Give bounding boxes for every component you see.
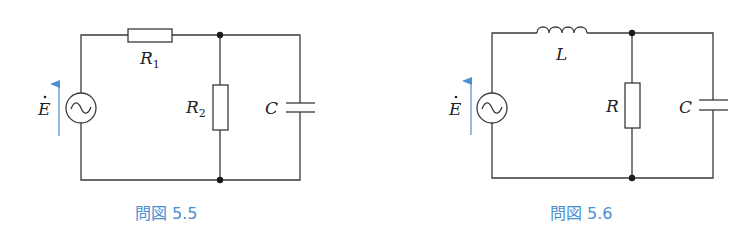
- junction-node-top: [629, 30, 635, 36]
- label-r2: R2: [185, 97, 206, 120]
- label-e: E: [448, 96, 462, 119]
- wire-left: [492, 33, 537, 93]
- capacitor-c: [699, 100, 728, 110]
- capacitor-c: [286, 103, 315, 112]
- wire-top: [587, 33, 713, 100]
- circuit-diagrams: E R1 R2 C E: [0, 0, 753, 237]
- figure-caption-5-5: 問図 5.5: [135, 200, 198, 224]
- resistor-r2: [213, 85, 228, 130]
- label-r1: R1: [139, 48, 160, 71]
- wire-left-bottom: [81, 112, 300, 180]
- wire-left: [81, 35, 128, 93]
- resistor-r: [625, 83, 640, 128]
- junction-node-bottom: [217, 177, 223, 183]
- resistor-r1: [128, 29, 172, 42]
- wire-top: [172, 35, 300, 103]
- ac-source-icon: [477, 93, 507, 123]
- ac-source-icon: [66, 93, 96, 123]
- figure-5-6-circuit: E L R C: [448, 27, 728, 181]
- inductor-l: [537, 27, 587, 33]
- junction-node-bottom: [629, 175, 635, 181]
- label-l: L: [555, 44, 567, 64]
- label-r: R: [605, 96, 619, 116]
- figure-caption-5-6: 問図 5.6: [550, 200, 613, 224]
- label-c: C: [679, 97, 692, 117]
- svg-text:E: E: [37, 99, 51, 119]
- label-e: E: [37, 96, 51, 119]
- svg-text:E: E: [448, 99, 462, 119]
- figure-5-5-circuit: E R1 R2 C: [37, 29, 315, 183]
- junction-node-top: [217, 32, 223, 38]
- label-c: C: [265, 98, 278, 118]
- wire-left-bottom: [492, 110, 713, 178]
